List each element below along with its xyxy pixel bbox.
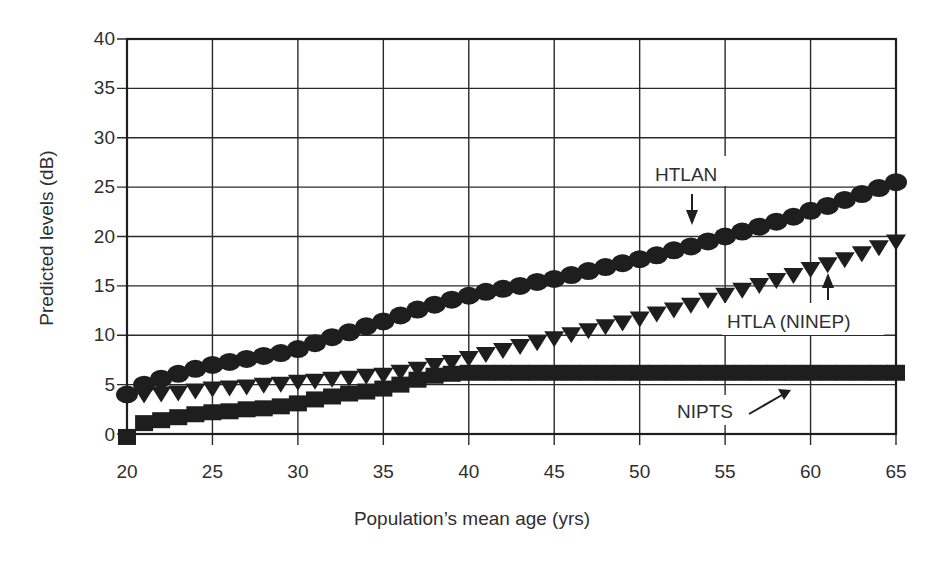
data-point-square (494, 365, 512, 381)
y-tick-label: 5 (104, 374, 115, 395)
data-point-square (545, 365, 563, 381)
arrow-up-icon (822, 273, 834, 300)
data-point-square (631, 365, 649, 381)
x-tick-label: 65 (885, 461, 906, 482)
data-point-square (255, 400, 273, 416)
data-point-square (733, 365, 751, 381)
y-tick-label: 35 (94, 77, 115, 98)
data-point-triangle (288, 375, 308, 391)
x-tick-label: 50 (629, 461, 650, 482)
y-tick-label: 20 (94, 226, 115, 247)
annotation-htlan-label: HTLAN (655, 164, 717, 185)
data-point-triangle (732, 283, 752, 299)
data-point-triangle (544, 331, 564, 347)
data-point-square (323, 388, 341, 404)
data-point-triangle (801, 262, 821, 278)
data-point-square (460, 365, 478, 381)
data-point-square (819, 365, 837, 381)
data-point-triangle (715, 288, 735, 304)
data-point-square (169, 409, 187, 425)
data-point-square (511, 365, 529, 381)
annotation-htla-ninep-label: HTLA (NINEP) (727, 311, 851, 332)
x-tick-label: 45 (544, 461, 565, 482)
data-point-triangle (869, 240, 889, 256)
data-point-triangle (493, 343, 513, 359)
x-tick-label: 20 (116, 461, 137, 482)
data-point-triangle (185, 384, 205, 400)
data-point-triangle (305, 374, 325, 390)
data-point-triangle (254, 378, 274, 394)
chart: 0510152025303540 20253035404550556065 HT… (0, 0, 941, 564)
data-point-square (665, 365, 683, 381)
data-point-triangle (664, 303, 684, 319)
data-point-square (716, 365, 734, 381)
x-tick-label: 60 (800, 461, 821, 482)
data-point-square (477, 365, 495, 381)
x-axis-title: Population’s mean age (yrs) (354, 508, 590, 529)
data-point-square (648, 365, 666, 381)
data-point-square (340, 386, 358, 402)
data-point-triangle (578, 323, 598, 339)
y-tick-label: 10 (94, 324, 115, 345)
data-point-square (562, 365, 580, 381)
data-point-triangle (818, 257, 838, 273)
data-point-triangle (202, 382, 222, 398)
data-point-square (614, 365, 632, 381)
data-point-triangle (630, 311, 650, 327)
arrow-down-icon (686, 194, 698, 225)
data-point-square (203, 404, 221, 420)
y-tick-label: 0 (104, 424, 115, 445)
data-point-square (596, 365, 614, 381)
data-point-square (289, 395, 307, 411)
data-point-square (870, 365, 888, 381)
data-point-square (272, 398, 290, 414)
data-point-triangle (613, 315, 633, 331)
x-axis-ticks: 20253035404550556065 (116, 461, 906, 482)
data-point-square (853, 365, 871, 381)
y-tick-label: 25 (94, 176, 115, 197)
annotation-htla-ninep: HTLA (NINEP) (722, 273, 884, 335)
data-point-triangle (681, 298, 701, 314)
y-tick-label: 15 (94, 275, 115, 296)
data-point-square (135, 415, 153, 431)
data-point-square (306, 391, 324, 407)
data-point-square (238, 401, 256, 417)
data-point-square (784, 365, 802, 381)
data-point-triangle (220, 381, 240, 397)
data-point-triangle (835, 252, 855, 268)
data-point-square (152, 412, 170, 428)
data-point-triangle (595, 319, 615, 335)
data-point-triangle (151, 387, 171, 403)
y-tick-label: 40 (94, 28, 115, 49)
data-point-square (357, 384, 375, 400)
y-axis-ticks: 0510152025303540 (94, 28, 115, 445)
data-point-triangle (168, 386, 188, 402)
data-point-square (802, 365, 820, 381)
data-point-square (750, 365, 768, 381)
data-point-triangle (510, 339, 530, 355)
data-point-triangle (527, 335, 547, 351)
data-point-triangle (783, 268, 803, 284)
x-tick-label: 35 (373, 461, 394, 482)
data-point-square (767, 365, 785, 381)
arrow-diagonal-icon (749, 389, 791, 414)
data-point-triangle (237, 380, 257, 396)
data-point-square (528, 365, 546, 381)
data-point-square (699, 365, 717, 381)
data-point-square (221, 403, 239, 419)
annotation-nipts: NIPTS (673, 389, 791, 425)
data-point-triangle (647, 307, 667, 323)
x-tick-label: 25 (202, 461, 223, 482)
data-point-triangle (356, 369, 376, 385)
data-point-square (682, 365, 700, 381)
y-tick-label: 30 (94, 127, 115, 148)
annotation-htlan: HTLAN (650, 156, 736, 225)
data-point-square (836, 365, 854, 381)
data-point-triangle (459, 351, 479, 367)
annotation-nipts-label: NIPTS (677, 401, 733, 422)
data-point-triangle (698, 293, 718, 309)
data-point-square (186, 406, 204, 422)
x-tick-label: 30 (287, 461, 308, 482)
data-point-triangle (852, 246, 872, 262)
data-point-square (579, 365, 597, 381)
